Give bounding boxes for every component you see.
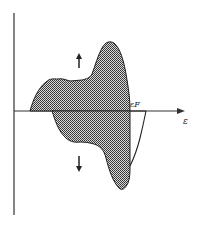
dos-diagram — [0, 0, 199, 230]
spin-up-arrow-icon — [76, 53, 82, 68]
fermi-level-label: εF — [130, 100, 140, 109]
spin-down-band-filled — [52, 111, 130, 189]
energy-axis-label: ε — [183, 116, 188, 126]
spin-up-band-filled — [30, 42, 130, 111]
energy-axis-arrowhead — [177, 108, 185, 114]
spin-down-arrow-icon — [76, 156, 82, 172]
spin-down-band-empty — [130, 111, 146, 166]
